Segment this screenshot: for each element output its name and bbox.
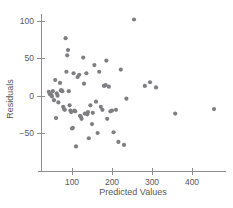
data-point: [94, 100, 98, 104]
data-point: [68, 103, 72, 107]
data-point: [65, 53, 69, 57]
data-point: [67, 89, 71, 93]
residual-plot-figure: −50050100 Residuals 100200300400 Predict…: [0, 0, 233, 208]
data-point: [56, 100, 60, 104]
data-point: [107, 85, 111, 89]
data-point: [91, 111, 95, 115]
x-axis-title: Predicted Values: [99, 187, 167, 197]
data-point: [212, 107, 216, 111]
data-point: [51, 89, 55, 93]
data-point: [143, 84, 147, 88]
x-tick-label: 300: [145, 177, 159, 187]
x-tick-label: 100: [65, 177, 79, 187]
data-point: [119, 67, 123, 71]
data-point: [92, 63, 96, 67]
data-point: [50, 94, 54, 98]
data-point: [173, 111, 177, 115]
data-point: [124, 97, 128, 101]
y-axis: −50050100 Residuals: [5, 14, 45, 172]
data-point: [84, 71, 88, 75]
data-point: [82, 82, 86, 86]
y-tick-label: 100: [20, 16, 34, 26]
data-point: [105, 117, 109, 121]
data-point: [104, 58, 108, 62]
data-point: [81, 55, 85, 59]
data-point: [97, 70, 101, 74]
data-point: [96, 131, 100, 135]
data-point: [58, 81, 62, 85]
y-tick-label: 50: [25, 53, 35, 63]
data-point: [122, 143, 126, 147]
y-axis-tick-labels: −50050100: [20, 16, 35, 138]
data-point: [148, 80, 152, 84]
data-point-group: [47, 17, 216, 148]
data-point: [53, 78, 57, 82]
data-point: [77, 73, 81, 77]
scatter-plot-canvas: −50050100 Residuals 100200300400 Predict…: [0, 0, 233, 208]
data-point: [132, 17, 136, 21]
y-tick-label: 0: [29, 91, 34, 101]
data-point: [64, 70, 68, 74]
data-point: [100, 108, 104, 112]
data-point: [73, 109, 77, 113]
data-point: [110, 109, 114, 113]
x-axis-tick-labels: 100200300400: [65, 177, 199, 187]
y-tick-label: −50: [20, 128, 35, 138]
data-point: [88, 103, 92, 107]
data-point: [56, 94, 60, 98]
x-axis: 100200300400 Predicted Values: [38, 168, 226, 197]
data-point: [64, 36, 68, 40]
data-point: [52, 98, 56, 102]
data-point: [87, 136, 91, 140]
data-point: [86, 110, 90, 114]
data-point: [66, 48, 70, 52]
data-point: [154, 85, 158, 89]
x-tick-label: 400: [185, 177, 199, 187]
data-point: [112, 130, 116, 134]
x-tick-label: 200: [105, 177, 119, 187]
data-point: [60, 89, 64, 93]
data-point: [80, 117, 84, 121]
data-point: [71, 126, 75, 130]
data-point: [54, 116, 58, 120]
y-axis-title: Residuals: [5, 79, 15, 119]
data-point: [74, 144, 78, 148]
data-point: [72, 71, 76, 75]
data-point: [63, 108, 67, 112]
data-point: [90, 122, 94, 126]
data-point: [114, 108, 118, 112]
data-point: [116, 140, 120, 144]
